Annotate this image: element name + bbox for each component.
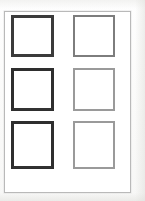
grid-cell-r2c2[interactable] <box>73 68 115 111</box>
sheet-frame <box>4 11 131 193</box>
grid-cell-r3c1[interactable] <box>11 121 54 169</box>
cell-grid <box>5 12 130 192</box>
grid-cell-r1c2[interactable] <box>73 15 115 57</box>
grid-cell-r1c1[interactable] <box>11 15 54 57</box>
grid-cell-r3c2[interactable] <box>73 121 115 169</box>
grid-cell-r2c1[interactable] <box>11 68 54 111</box>
page-canvas <box>0 0 145 201</box>
